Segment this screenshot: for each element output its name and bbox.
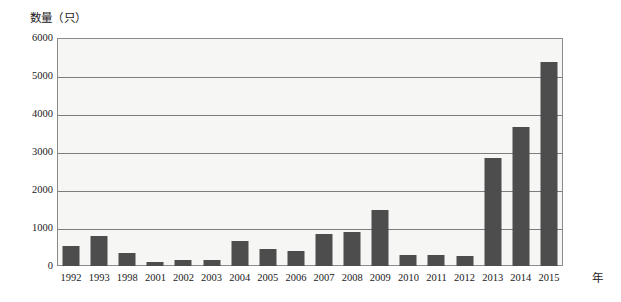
bar-slot xyxy=(226,38,254,266)
x-axis-title: 年 xyxy=(592,272,603,284)
bar xyxy=(147,262,164,266)
x-axis-tick-label: 2004 xyxy=(229,272,250,284)
bar-slot xyxy=(85,38,113,266)
bar xyxy=(316,234,333,266)
bar xyxy=(400,255,417,266)
bar-slot xyxy=(57,38,85,266)
bar xyxy=(91,236,108,266)
bar-slot xyxy=(535,38,563,266)
bar-slot xyxy=(310,38,338,266)
bar xyxy=(119,253,136,266)
bar-slot xyxy=(282,38,310,266)
bar xyxy=(287,251,304,266)
bar xyxy=(203,260,220,266)
bar-slot xyxy=(169,38,197,266)
bar-slot xyxy=(451,38,479,266)
y-axis-tick-label: 2000 xyxy=(0,185,53,195)
bar-slot xyxy=(198,38,226,266)
bar-slot xyxy=(422,38,450,266)
x-axis-tick-label: 2013 xyxy=(482,272,503,284)
bar-slot xyxy=(479,38,507,266)
bar xyxy=(540,62,557,266)
y-axis-tick-label: 5000 xyxy=(0,71,53,81)
bar-slot xyxy=(113,38,141,266)
bar xyxy=(484,158,501,266)
x-axis-tick-label: 2011 xyxy=(426,272,447,284)
y-axis-tick-label: 4000 xyxy=(0,109,53,119)
bar xyxy=(259,249,276,266)
y-axis-tick-label: 3000 xyxy=(0,147,53,157)
bar xyxy=(428,255,445,266)
bar-slot xyxy=(507,38,535,266)
y-axis-tick-label: 0 xyxy=(0,261,53,271)
y-axis-title: 数量（只） xyxy=(30,9,86,25)
x-axis-tick-label: 2003 xyxy=(201,272,222,284)
x-axis-tick-label: 2009 xyxy=(370,272,391,284)
bar xyxy=(512,127,529,266)
bar xyxy=(175,260,192,266)
y-axis-tick-label: 6000 xyxy=(0,33,53,43)
bar-slot xyxy=(366,38,394,266)
bars-layer xyxy=(57,38,563,266)
x-axis-tick-label: 2008 xyxy=(342,272,363,284)
bar xyxy=(231,241,248,266)
bar xyxy=(344,232,361,266)
x-axis-tick-label: 2012 xyxy=(454,272,475,284)
bar-slot xyxy=(254,38,282,266)
bar-chart: 数量（只） 0100020003000400050006000 19921993… xyxy=(0,0,621,302)
bar xyxy=(456,256,473,266)
bar-slot xyxy=(141,38,169,266)
x-axis-tick-label: 1993 xyxy=(89,272,110,284)
x-axis-tick-label: 1998 xyxy=(117,272,138,284)
x-axis-tick-label: 2010 xyxy=(398,272,419,284)
x-axis-tick-label: 1992 xyxy=(61,272,82,284)
y-axis-tick-label: 1000 xyxy=(0,223,53,233)
x-axis-tick-label: 2001 xyxy=(145,272,166,284)
bar xyxy=(63,246,80,266)
x-axis-tick-label: 2005 xyxy=(257,272,278,284)
bar-slot xyxy=(394,38,422,266)
x-axis-tick-label: 2002 xyxy=(173,272,194,284)
bar-slot xyxy=(338,38,366,266)
x-axis-tick-label: 2007 xyxy=(314,272,335,284)
x-axis-tick-label: 2014 xyxy=(510,272,531,284)
x-axis-tick-label: 2006 xyxy=(285,272,306,284)
x-axis-tick-label: 2015 xyxy=(538,272,559,284)
y-axis-tick-labels: 0100020003000400050006000 xyxy=(0,38,53,266)
bar xyxy=(372,210,389,266)
x-axis-tick-labels: 1992199319982001200220032004200520062007… xyxy=(57,272,563,288)
